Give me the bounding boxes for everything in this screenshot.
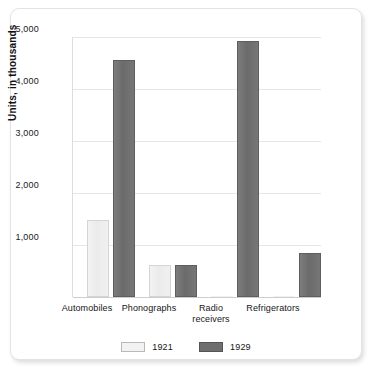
x-label-refrigerators: Refrigerators <box>225 303 321 314</box>
legend-label-1921: 1921 <box>152 342 173 352</box>
chart-card: Units, in thousands 5,000 4,000 3,000 2,… <box>10 8 362 360</box>
chart-legend: 1921 1929 <box>11 342 361 352</box>
bar-phonographs-1929 <box>175 265 197 297</box>
gridline-3000 <box>73 141 321 142</box>
bar-automobiles-1921 <box>87 220 109 297</box>
bar-refrigerators-1921 <box>273 296 295 297</box>
y-tick-4000: 4,000 <box>0 76 39 86</box>
x-label-radio-receivers-line2: receivers <box>163 314 259 325</box>
legend-label-1929: 1929 <box>230 342 251 352</box>
legend-item-1921: 1921 <box>121 342 173 352</box>
legend-swatch-1929 <box>199 342 223 352</box>
y-axis-line <box>72 37 73 297</box>
x-axis-line <box>73 297 321 298</box>
y-tick-5000: 5,000 <box>0 24 39 34</box>
y-tick-2000: 2,000 <box>0 180 39 190</box>
y-tick-3000: 3,000 <box>0 128 39 138</box>
bar-phonographs-1921 <box>149 265 171 297</box>
gridline-2000 <box>73 193 321 194</box>
bar-radio-receivers-1921 <box>211 296 233 297</box>
legend-item-1929: 1929 <box>199 342 251 352</box>
gridline-4000 <box>73 89 321 90</box>
bar-automobiles-1929 <box>113 60 135 297</box>
plot-area <box>73 37 321 297</box>
y-axis-label: Units, in thousands <box>7 24 18 121</box>
gridline-5000 <box>73 37 321 38</box>
bar-radio-receivers-1929 <box>237 41 259 297</box>
x-label-refrigerators-line1: Refrigerators <box>225 303 321 314</box>
legend-swatch-1921 <box>121 342 145 352</box>
y-tick-1000: 1,000 <box>0 232 39 242</box>
gridline-1000 <box>73 245 321 246</box>
bar-refrigerators-1929 <box>299 253 321 297</box>
